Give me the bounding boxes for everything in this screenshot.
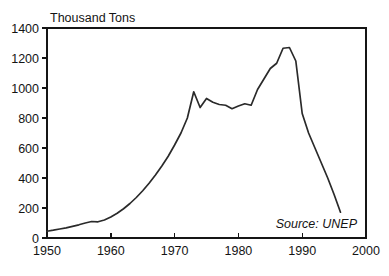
source-annotation: Source: UNEP (276, 217, 358, 231)
x-tick-label: 1980 (224, 244, 252, 258)
y-axis-tick-labels: 0200400600800100012001400 (11, 22, 39, 246)
x-tick-label: 1970 (161, 244, 189, 258)
y-tick-label: 1200 (11, 52, 39, 66)
y-tick-label: 400 (18, 172, 39, 186)
x-tick-label: 1960 (97, 244, 125, 258)
data-line-1 (47, 48, 340, 232)
y-tick-label: 200 (18, 202, 39, 216)
y-tick-label: 600 (18, 142, 39, 156)
y-tick-label: 1000 (11, 82, 39, 96)
x-tick-label: 1950 (33, 244, 61, 258)
chart-container: 0200400600800100012001400 19501960197019… (0, 0, 389, 276)
x-axis-tick-labels: 195019601970198019902000 (33, 244, 380, 258)
x-tick-label: 1990 (288, 244, 316, 258)
y-axis-title: Thousand Tons (50, 11, 135, 25)
line-chart: 0200400600800100012001400 19501960197019… (0, 0, 389, 276)
y-tick-label: 800 (18, 112, 39, 126)
x-tick-label: 2000 (352, 244, 380, 258)
y-tick-label: 1400 (11, 22, 39, 36)
data-series-group (47, 48, 340, 232)
plot-frame (47, 28, 366, 238)
